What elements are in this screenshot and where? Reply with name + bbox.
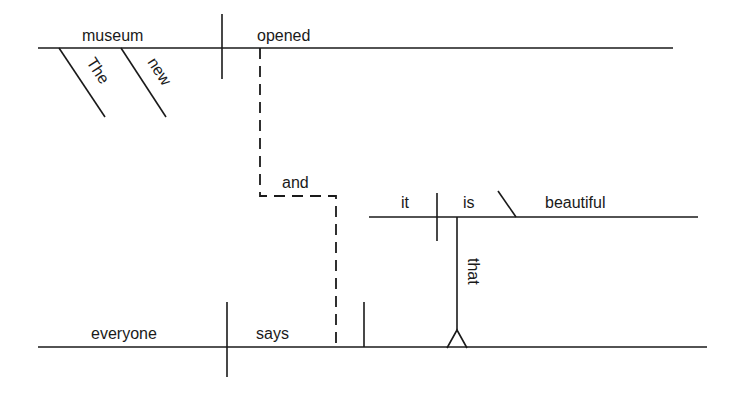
clause1-verb: opened — [257, 27, 310, 44]
conjunction: and — [282, 174, 309, 191]
clause1-subject: museum — [82, 27, 143, 44]
modifier-the: The — [83, 54, 112, 86]
clause-connector: that — [465, 258, 482, 285]
noun-clause-complement-slash — [498, 191, 516, 217]
noun-clause-complement: beautiful — [545, 194, 606, 211]
modifier-new: new — [144, 54, 174, 88]
conjunction-connector — [260, 48, 336, 347]
noun-clause-verb: is — [463, 194, 475, 211]
clause2-subject: everyone — [91, 325, 157, 342]
sentence-diagram: museum opened The new and everyone says … — [0, 0, 735, 402]
clause2-verb: says — [256, 325, 289, 342]
noun-clause-subject: it — [401, 194, 410, 211]
pedestal-base — [447, 330, 467, 348]
